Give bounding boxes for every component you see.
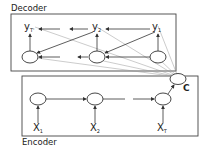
decoder-node-2 [89, 51, 105, 63]
encoder-node-t [155, 93, 171, 105]
decoder-node-t [22, 51, 38, 63]
output-label-1: y1 [152, 21, 161, 33]
output-label-t: yT' [24, 21, 34, 33]
encoder-decoder-diagram: Decoder Encoder yT' y2 y1 [0, 0, 215, 149]
encoder-node-1 [30, 93, 46, 105]
input-label-2: X2 [90, 122, 100, 134]
decoder-title: Decoder [11, 3, 47, 13]
encoder-box [22, 76, 198, 136]
output-label-2: y2 [92, 21, 101, 33]
decoder-node-1 [150, 51, 166, 63]
input-label-t: XT [157, 122, 168, 134]
encoder-title: Encoder [22, 137, 57, 147]
context-label: C [183, 83, 190, 93]
encoder-node-2 [87, 93, 103, 105]
encoder-arrows [38, 85, 174, 123]
input-label-1: X1 [33, 122, 43, 134]
